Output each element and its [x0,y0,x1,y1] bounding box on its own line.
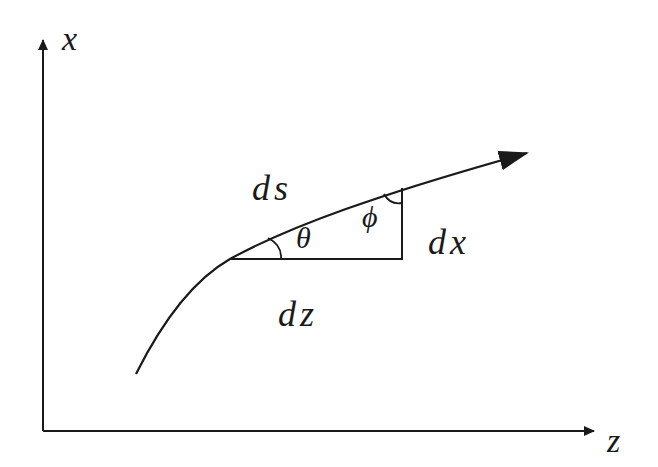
vertical-leg-label: dx [428,224,470,260]
theta-angle-arc [268,238,281,259]
diagram-canvas: x z ds dx dz θ ϕ [0,0,658,467]
hypotenuse-label: ds [252,170,292,206]
ray-curve [136,153,527,374]
horizontal-leg-label: dz [278,296,318,332]
phi-angle-label: ϕ [362,202,378,232]
z-axis-label: z [607,424,620,458]
diagram-graphic [0,0,658,467]
theta-angle-label: θ [296,223,311,253]
x-axis-label: x [62,22,77,56]
